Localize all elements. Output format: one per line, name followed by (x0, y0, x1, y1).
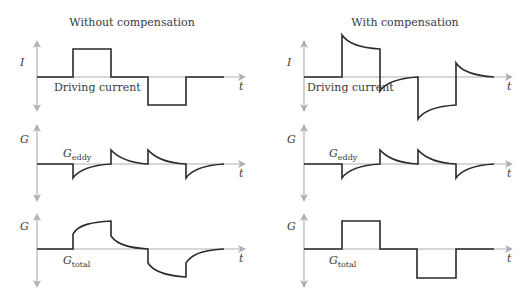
panel-right-total: G t Gtotal (287, 215, 512, 286)
g-total-main: G (329, 254, 338, 267)
panel-left-total: G t Gtotal (20, 215, 244, 286)
axis-label-gradient: G (20, 133, 29, 146)
g-total-signal (304, 221, 494, 278)
axis-label-current: I (19, 56, 25, 69)
axis-label-time: t (507, 252, 512, 265)
axis-label-gradient: G (287, 133, 296, 146)
driving-current-label: Driving current (54, 81, 141, 94)
axis-label-time: t (507, 167, 512, 180)
g-eddy-label: Geddy (329, 147, 358, 162)
eddy-current-compensation-diagram: Without compensation With compensation I… (0, 0, 531, 303)
g-eddy-main: G (329, 147, 338, 160)
g-total-subscript: total (338, 260, 357, 269)
panel-left-eddy: G t Geddy (20, 126, 244, 200)
title-without-compensation: Without compensation (69, 16, 194, 29)
panel-right-eddy: G t Geddy (287, 126, 512, 200)
panel-right-current: I t Driving current (286, 35, 512, 119)
axis-label-time: t (507, 80, 512, 93)
panel-left-current: I t Driving current (19, 42, 244, 110)
g-total-subscript: total (72, 260, 91, 269)
g-eddy-label: Geddy (63, 147, 92, 162)
axis-label-current: I (286, 56, 292, 69)
axis-label-gradient: G (287, 220, 296, 233)
g-eddy-main: G (63, 147, 72, 160)
g-eddy-subscript: eddy (72, 153, 92, 162)
axis-label-time: t (239, 252, 244, 265)
g-total-label: Gtotal (63, 254, 91, 269)
axis-label-time: t (239, 167, 244, 180)
g-eddy-subscript: eddy (338, 153, 358, 162)
g-total-main: G (63, 254, 72, 267)
driving-current-label: Driving current (307, 81, 394, 94)
axis-label-time: t (239, 80, 244, 93)
g-total-label: Gtotal (329, 254, 357, 269)
axis-label-gradient: G (20, 220, 29, 233)
title-with-compensation: With compensation (351, 16, 458, 29)
driving-current-signal (37, 49, 224, 105)
